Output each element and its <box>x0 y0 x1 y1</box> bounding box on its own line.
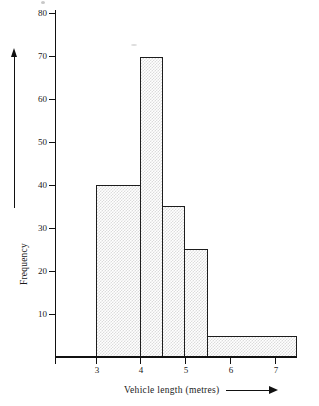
vehicle-length-axis-arrow-icon <box>226 386 278 395</box>
x-axis-title: Vehicle length (metres) <box>124 385 220 395</box>
y-tick-10 <box>49 314 55 315</box>
x-tick-label-7: 7 <box>266 366 286 375</box>
y-tick-label-60: 60 <box>27 95 47 104</box>
x-tick-5 <box>185 357 186 364</box>
histogram-bar-4.5-5 <box>162 206 185 358</box>
y-tick-label-30: 30 <box>27 224 47 233</box>
y-axis-title: Frequency <box>19 243 29 285</box>
histogram-bar-5.5-7.5 <box>207 336 297 358</box>
frequency-axis-arrow-icon <box>11 48 19 208</box>
y-tick-label-40: 40 <box>27 181 47 190</box>
y-tick-label-10: 10 <box>27 310 47 319</box>
y-tick-label-50: 50 <box>27 138 47 147</box>
y-tick-50 <box>49 142 55 143</box>
y-axis-line <box>55 10 56 357</box>
y-tick-label-20: 20 <box>27 267 47 276</box>
x-axis-title-group: Vehicle length (metres) <box>124 385 278 395</box>
x-axis-line <box>55 356 297 358</box>
histogram-bar-3-4 <box>96 185 141 358</box>
y-tick-20 <box>49 271 55 272</box>
histogram-figure: 80 70 60 50 40 30 20 10 Frequency 3 4 5 … <box>0 0 319 406</box>
x-tick-label-4: 4 <box>131 366 151 375</box>
y-tick-70 <box>49 56 55 57</box>
histogram-bar-4-4.5 <box>140 57 163 358</box>
scan-artifact <box>41 1 45 4</box>
x-tick-label-3: 3 <box>87 366 107 375</box>
y-tick-30 <box>49 228 55 229</box>
y-tick-80 <box>49 13 55 14</box>
y-tick-label-70: 70 <box>27 52 47 61</box>
y-tick-40 <box>49 185 55 186</box>
y-tick-60 <box>49 99 55 100</box>
x-tick-label-6: 6 <box>221 366 241 375</box>
y-tick-label-80: 80 <box>27 9 47 18</box>
scan-artifact-2 <box>131 44 137 46</box>
x-tick-7 <box>275 357 276 364</box>
histogram-bar-5-5.5 <box>184 249 208 358</box>
x-tick-6 <box>230 357 231 364</box>
x-tick-4 <box>140 357 141 364</box>
x-tick-3 <box>96 357 97 364</box>
x-tick-origin <box>55 357 56 364</box>
x-tick-label-5: 5 <box>176 366 196 375</box>
